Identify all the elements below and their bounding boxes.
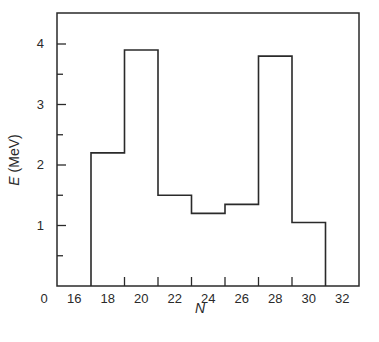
x-tick-label: 22 [168,292,182,306]
y-tick-label: 4 [37,37,44,51]
x-tick-label: 0 [40,292,47,306]
x-tick-label: 28 [268,292,282,306]
x-axis-title: N [195,300,205,316]
y-tick-label: 1 [37,219,44,233]
y-axis-variable: E [6,176,22,185]
x-tick-label: 26 [235,292,249,306]
energy-step-line [91,50,326,286]
histogram-chart [0,0,379,342]
figure-caption-cutoff [8,330,373,342]
x-tick-label: 18 [101,292,115,306]
x-tick-label: 20 [134,292,148,306]
x-tick-label: 32 [335,292,349,306]
y-tick-label: 2 [37,158,44,172]
x-tick-label: 30 [302,292,316,306]
x-tick-label: 16 [67,292,81,306]
plot-frame [57,13,359,286]
y-axis-title: E (MeV) [6,134,22,185]
y-axis-unit: (MeV) [6,134,22,172]
y-tick-label: 3 [37,98,44,112]
y-axis-ticks [57,44,66,256]
x-axis-ticks [125,277,293,286]
